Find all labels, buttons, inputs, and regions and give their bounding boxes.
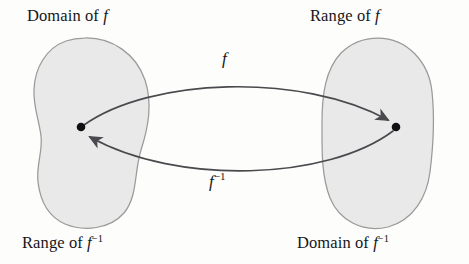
label-domain-of-f-inverse-exponent: −1: [378, 233, 389, 244]
label-range-of-f-text: Range of: [310, 6, 375, 25]
label-forward-mapping-symbol: f: [222, 49, 227, 68]
label-inverse-mapping: f−1: [209, 172, 225, 192]
label-range-of-f-inverse: Range of f−1: [22, 233, 103, 253]
label-forward-mapping: f: [222, 49, 227, 69]
label-range-of-f: Range of f: [310, 6, 380, 26]
label-domain-of-f-inverse: Domain of f−1: [297, 233, 389, 253]
label-range-of-f-inverse-text: Range of: [22, 233, 87, 252]
domain-element-point: [77, 123, 86, 132]
figure-canvas: Domain of f Range of f Range of f−1 Doma…: [0, 0, 469, 264]
label-domain-of-f-symbol: f: [103, 6, 108, 25]
label-range-of-f-symbol: f: [375, 6, 380, 25]
label-domain-of-f-inverse-text: Domain of: [297, 233, 373, 252]
label-inverse-mapping-exponent: −1: [214, 170, 226, 182]
mapping-diagram: [0, 0, 469, 264]
label-domain-of-f: Domain of f: [27, 6, 108, 26]
range-of-f-set: [322, 38, 434, 228]
label-range-of-f-inverse-exponent: −1: [92, 233, 103, 244]
domain-of-f-set: [34, 38, 149, 228]
label-domain-of-f-text: Domain of: [27, 6, 103, 25]
range-element-point: [392, 123, 401, 132]
